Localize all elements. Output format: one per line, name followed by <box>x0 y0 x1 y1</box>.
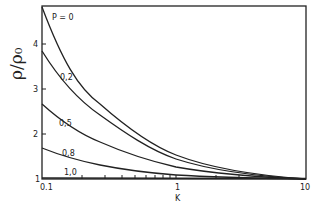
xtick-1: 1 <box>175 183 180 192</box>
ytick-2: 2 <box>33 130 38 139</box>
label-p0: P = 0 <box>52 13 74 22</box>
plot-frame <box>42 6 306 179</box>
ytick-4: 4 <box>33 40 38 49</box>
curve-p10 <box>42 178 306 179</box>
chart-canvas: P = 0 0,2 0,5 0,8 1,0 4 3 2 1 0.1 1 10 K… <box>0 0 317 211</box>
x-axis-label: K <box>175 194 181 203</box>
ytick-3: 3 <box>33 85 38 94</box>
curve-p05 <box>42 104 306 179</box>
xtick-0.1: 0.1 <box>40 183 53 192</box>
label-p02: 0,2 <box>60 73 73 82</box>
xtick-10: 10 <box>300 183 310 192</box>
label-p08: 0,8 <box>62 149 75 158</box>
label-p05: 0,5 <box>59 119 72 128</box>
curve-p02 <box>42 51 306 179</box>
curve-p08 <box>42 148 306 179</box>
curves <box>42 7 306 179</box>
label-p10: 1,0 <box>64 168 77 177</box>
curve-p0 <box>42 7 306 179</box>
y-axis-label: ρ/ρ₀ <box>6 47 26 80</box>
